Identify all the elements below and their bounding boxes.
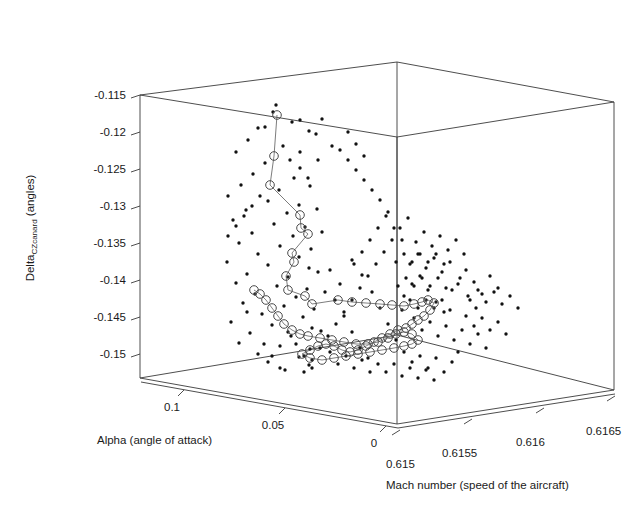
scatter-point [458, 276, 461, 279]
trajectory-markers-layer [250, 111, 439, 365]
scatter-point [242, 214, 245, 217]
scatter-point [488, 274, 491, 277]
scatter-point [316, 158, 319, 161]
scatter-point [444, 324, 447, 327]
y-tickmark [131, 280, 140, 283]
y-tickmark [131, 95, 140, 98]
scatter-point [460, 328, 463, 331]
scatter-point [234, 224, 237, 227]
scatter-point [263, 161, 266, 164]
x-tick-label: 0.1 [164, 401, 180, 413]
scatter-point [466, 294, 469, 297]
scatter-point [420, 276, 423, 279]
trajectory-marker [280, 320, 289, 329]
scatter-point [352, 366, 355, 369]
scatter-point [434, 252, 437, 255]
scatter-point [394, 260, 397, 263]
box-top-face [140, 62, 614, 137]
y-tick-label: -0.125 [93, 163, 126, 175]
scatter-point [338, 148, 341, 151]
scatter-point [398, 226, 401, 229]
scatter-point [251, 172, 254, 175]
scatter-point [418, 354, 421, 357]
scatter3d-figure: -0.115 -0.12 -0.125 -0.13 -0.135 -0.14 -… [0, 0, 641, 509]
scatter-point [404, 276, 407, 279]
scatter-point [400, 238, 403, 241]
scatter-point [289, 334, 292, 337]
trajectory-marker [352, 340, 361, 349]
scatter-point [310, 326, 313, 329]
scatter-point [392, 362, 395, 365]
scatter-point [402, 294, 405, 297]
scatter-point [418, 252, 421, 255]
scatter-point [301, 315, 304, 318]
scatter-point [297, 255, 300, 258]
scatter-point [376, 362, 379, 365]
scatter-point [360, 250, 363, 253]
scatter-point [504, 332, 507, 335]
scatter-point [446, 248, 449, 251]
scatter-point [226, 194, 229, 197]
scatter-point [358, 286, 361, 289]
scatter-point [484, 300, 487, 303]
scatter-point [328, 350, 331, 353]
scatter-point [229, 320, 232, 323]
x-tickmark [380, 426, 386, 432]
scatter-point [234, 150, 237, 153]
trajectory-marker [297, 224, 306, 233]
scatter-point [362, 154, 365, 157]
scatter-point [448, 308, 451, 311]
scatter-point [277, 188, 280, 191]
scatter-point [305, 287, 308, 290]
scatter-point [334, 322, 337, 325]
trajectory-marker [298, 350, 307, 359]
trajectory-marker [388, 301, 397, 310]
trajectory-marker [304, 230, 313, 239]
scatter-point [310, 366, 313, 369]
trajectory-marker [340, 338, 349, 347]
scatter-point [436, 276, 439, 279]
scatter-point [424, 368, 427, 371]
scatter-point [308, 184, 311, 187]
trajectory-marker [392, 330, 401, 339]
trajectory-marker [330, 354, 339, 363]
trajectory-marker [290, 258, 299, 267]
scatter-point [386, 210, 389, 213]
scatter-point [384, 370, 387, 373]
scatter-point [416, 376, 419, 379]
trajectory-marker [376, 300, 385, 309]
scatter-point [298, 166, 301, 169]
scatter-point [231, 218, 234, 221]
y-axis-title-group: DeltaCZcanard (angles) [24, 174, 39, 281]
scatter-point [442, 310, 445, 313]
scatter-point [396, 284, 399, 287]
z-tickmark [392, 430, 400, 435]
scatter-point [319, 329, 322, 332]
scatter-point [263, 125, 266, 128]
scatter-point [432, 378, 435, 381]
trajectory-marker [390, 344, 399, 353]
y-tickmark [131, 243, 140, 246]
scatter-point [500, 302, 503, 305]
scatter-point [320, 230, 323, 233]
trajectory-marker [250, 286, 259, 295]
box-edge-bottom-back-right [397, 335, 614, 390]
scatter-point [346, 158, 349, 161]
y-tickmark [131, 132, 140, 135]
scatter-point [384, 214, 387, 217]
scatter-point [368, 370, 371, 373]
scatter-point [256, 252, 259, 255]
scatter-point [288, 158, 291, 161]
axes-box-wireframe [140, 62, 615, 428]
scatter-point [488, 328, 491, 331]
scatter-point [476, 332, 479, 335]
scatter-point [298, 150, 301, 153]
scatter-point [496, 320, 499, 323]
trajectory-marker [296, 211, 305, 220]
y-tick-label: -0.12 [100, 126, 126, 138]
scatter-point [402, 350, 405, 353]
scatter-point [378, 198, 381, 201]
scatter-point [426, 260, 429, 263]
scatter-point [290, 120, 293, 123]
z-tick-label: 0.616 [516, 436, 545, 448]
